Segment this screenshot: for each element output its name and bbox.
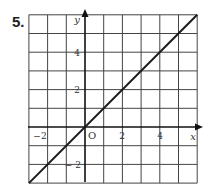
x-tick-label-4: 4 — [157, 131, 163, 141]
origin-label: O — [88, 130, 96, 141]
x-axis-label: x — [190, 131, 196, 142]
y-tick-label-2: 2 — [74, 85, 80, 95]
x-tick-label--2: −2 — [33, 131, 46, 141]
x-tick-label-2: 2 — [119, 131, 125, 141]
y-axis-label: y — [73, 14, 80, 25]
y-axis-arrow-icon — [82, 9, 89, 17]
y-tick-label--2: − 2 — [65, 160, 81, 170]
x-axis-arrow-icon — [195, 124, 203, 131]
line-y-equals-x — [29, 15, 197, 183]
coordinate-plane: −2 2 4 x O 4 2 − 2 y — [0, 0, 208, 195]
y-tick-label-4: 4 — [74, 48, 80, 58]
